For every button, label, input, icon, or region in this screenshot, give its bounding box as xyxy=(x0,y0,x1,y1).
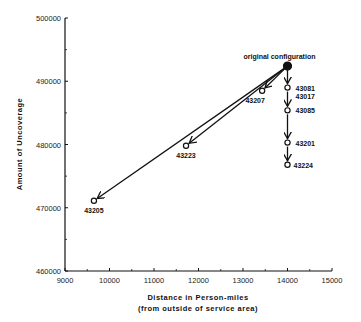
x-tick-label: 11000 xyxy=(144,276,164,285)
arrows xyxy=(97,68,287,198)
arrow xyxy=(265,69,285,88)
data-point xyxy=(285,85,290,90)
point-label: 43017 xyxy=(296,93,316,100)
point-label: 43081 xyxy=(296,85,316,92)
data-point xyxy=(260,88,265,93)
y-tick-label: 470000 xyxy=(36,204,61,213)
y-tick-label: 480000 xyxy=(36,141,61,150)
data-point xyxy=(285,162,290,167)
point-label: 43224 xyxy=(294,162,314,169)
x-axis-title: Distance in Person-miles xyxy=(147,293,248,302)
y-tick-label: 500000 xyxy=(36,14,61,23)
x-tick-label: 15000 xyxy=(322,276,343,285)
y-tick-label: 460000 xyxy=(36,267,61,276)
x-tick-label: 13000 xyxy=(233,276,254,285)
point-label: 43207 xyxy=(245,97,265,104)
data-point xyxy=(285,108,290,113)
arrow xyxy=(97,68,284,198)
point-label: 43223 xyxy=(176,152,196,159)
x-tick-label: 10000 xyxy=(99,276,120,285)
point-label: original configuration xyxy=(244,53,316,61)
arrow xyxy=(189,69,284,144)
scatter-chart: 9000100001100012000130001400015000460000… xyxy=(0,0,361,322)
x-tick-label: 12000 xyxy=(188,276,209,285)
data-point xyxy=(91,198,96,203)
data-point xyxy=(285,140,290,145)
point-label: 43201 xyxy=(296,140,316,147)
data-points: original configuration430814301743207430… xyxy=(84,53,315,214)
point-label: 43205 xyxy=(84,207,104,214)
data-point xyxy=(284,62,292,70)
y-axis-title: Amount of Uncoverage xyxy=(15,98,24,191)
x-axis-subtitle: (from outside of service area) xyxy=(138,304,258,313)
x-tick-label: 14000 xyxy=(277,276,298,285)
data-point xyxy=(183,143,188,148)
y-tick-label: 490000 xyxy=(36,77,61,86)
point-label: 43085 xyxy=(296,107,316,114)
x-tick-label: 9000 xyxy=(57,276,74,285)
